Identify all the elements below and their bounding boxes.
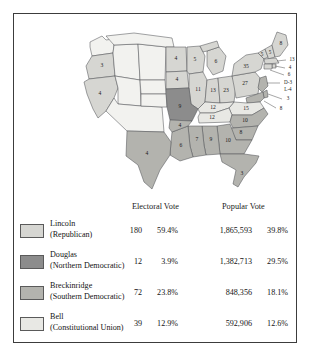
candidate-lincoln: Lincoln (Republican) — [50, 219, 92, 240]
label-texas: 4 — [146, 150, 149, 156]
label-vermont: 5 — [261, 51, 264, 57]
label-indiana: 13 — [210, 87, 216, 93]
candidate-bell: Bell (Constitutional Union) — [50, 312, 124, 333]
candidate-name-bell: Bell — [50, 312, 64, 321]
leader-connecticut — [270, 70, 284, 75]
leader-maryland — [264, 101, 276, 108]
territory-dakota — [138, 44, 166, 80]
territories-group — [84, 33, 174, 132]
popular-votes-lincoln: 1,865,593 — [200, 226, 252, 235]
electoral-votes-bell: 39 — [118, 319, 142, 328]
popular-votes-bell: 592,906 — [200, 319, 252, 328]
label-michigan: 6 — [215, 58, 218, 64]
legend-row-breckinridge: Breckinridge (Southern Democratic) 72 23… — [14, 282, 296, 309]
candidate-name-lincoln: Lincoln — [50, 219, 75, 228]
label-arkansas: 4 — [179, 122, 182, 128]
map-svg: 3 4 4 4 5 6 9 11 13 23 27 35 8 5 5 13 4 — [14, 14, 296, 194]
territory-nebraska — [140, 80, 166, 94]
popular-pct-breckinridge: 18.1% — [258, 288, 288, 297]
legend-row-lincoln: Lincoln (Republican) 180 59.4% 1,865,593… — [14, 220, 296, 247]
swatch-bell — [20, 317, 44, 331]
electoral-pct-douglas: 3.9% — [148, 257, 178, 266]
state-massachusetts — [264, 58, 279, 64]
electoral-votes-lincoln: 180 — [118, 226, 142, 235]
label-mississippi: 7 — [196, 136, 199, 142]
results-legend: Electoral Vote Popular Vote Lincoln (Rep… — [14, 196, 296, 342]
label-new-jersey-lincoln: L-4 — [284, 86, 292, 92]
column-header-popular: Popular Vote — [222, 202, 265, 211]
label-delaware: 3 — [287, 95, 290, 101]
party-breckinridge: (Southern Democratic) — [50, 292, 124, 303]
leader-massachusetts — [277, 60, 286, 61]
electoral-votes-breckinridge: 72 — [118, 288, 142, 297]
state-texas — [126, 131, 171, 189]
electoral-votes-douglas: 12 — [118, 257, 142, 266]
label-kentucky: 12 — [210, 104, 216, 110]
territory-kansas — [141, 94, 167, 107]
territory-utah — [115, 76, 141, 106]
label-missouri: 9 — [179, 103, 182, 109]
label-massachusetts: 13 — [289, 56, 295, 62]
electoral-pct-lincoln: 59.4% — [148, 226, 178, 235]
label-illinois: 11 — [195, 86, 201, 92]
state-florida — [220, 154, 259, 187]
label-rhode-island: 4 — [289, 64, 292, 70]
candidate-name-breckinridge: Breckinridge — [50, 281, 92, 290]
label-louisiana: 6 — [180, 142, 183, 148]
popular-pct-bell: 12.6% — [258, 319, 288, 328]
popular-votes-douglas: 1,382,713 — [200, 257, 252, 266]
label-alabama: 9 — [210, 136, 213, 142]
label-north-carolina: 10 — [242, 117, 248, 123]
party-douglas: (Northern Democratic) — [50, 261, 124, 272]
label-virginia: 15 — [243, 105, 249, 111]
candidate-breckinridge: Breckinridge (Southern Democratic) — [50, 281, 124, 302]
leader-rhode-island — [275, 66, 285, 68]
label-tennessee: 12 — [209, 114, 215, 120]
label-iowa: 4 — [176, 76, 179, 82]
candidate-name-douglas: Douglas — [50, 250, 77, 259]
swatch-douglas — [20, 255, 44, 269]
label-maine: 8 — [280, 40, 283, 46]
state-connecticut — [264, 64, 272, 69]
label-georgia: 10 — [225, 137, 231, 143]
label-minnesota: 4 — [175, 55, 178, 61]
us-map: 3 4 4 4 5 6 9 11 13 23 27 35 8 5 5 13 4 — [14, 14, 296, 194]
label-california: 4 — [99, 90, 102, 96]
election-map-figure: 3 4 4 4 5 6 9 11 13 23 27 35 8 5 5 13 4 — [0, 0, 310, 360]
electoral-pct-bell: 12.9% — [148, 319, 178, 328]
column-header-electoral: Electoral Vote — [132, 202, 179, 211]
electoral-pct-breckinridge: 23.8% — [148, 288, 178, 297]
swatch-breckinridge — [20, 286, 44, 300]
label-new-york: 35 — [243, 63, 249, 69]
swatch-lincoln — [20, 224, 44, 238]
label-pennsylvania: 27 — [242, 80, 248, 86]
popular-pct-douglas: 29.5% — [258, 257, 288, 266]
legend-row-douglas: Douglas (Northern Democratic) 12 3.9% 1,… — [14, 251, 296, 278]
label-new-jersey-douglas: D-3 — [284, 79, 292, 85]
legend-row-bell: Bell (Constitutional Union) 39 12.9% 592… — [14, 313, 296, 340]
label-maryland: 8 — [280, 105, 283, 111]
label-florida: 3 — [241, 170, 244, 176]
label-ohio: 23 — [223, 87, 229, 93]
leader-delaware — [268, 94, 282, 99]
label-oregon: 3 — [101, 62, 104, 68]
label-new-hampshire: 5 — [269, 49, 272, 55]
label-connecticut: 6 — [288, 71, 291, 77]
label-wisconsin: 5 — [194, 56, 197, 62]
candidate-douglas: Douglas (Northern Democratic) — [50, 250, 124, 271]
party-lincoln: (Republican) — [50, 230, 92, 241]
popular-votes-breckinridge: 848,356 — [200, 288, 252, 297]
party-bell: (Constitutional Union) — [50, 323, 124, 334]
label-south-carolina: 8 — [240, 129, 243, 135]
popular-pct-lincoln: 39.8% — [258, 226, 288, 235]
territory-nevada — [113, 44, 140, 80]
